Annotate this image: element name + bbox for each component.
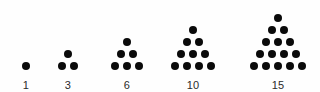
dot: [183, 38, 191, 46]
dot: [201, 50, 209, 58]
dot: [123, 62, 131, 70]
dot: [274, 38, 282, 46]
dot: [262, 62, 270, 70]
dot: [262, 38, 270, 46]
dot: [111, 62, 119, 70]
dot: [256, 50, 264, 58]
dot: [189, 26, 197, 34]
dot-row: [115, 48, 139, 60]
dot: [280, 50, 288, 58]
dot: [177, 50, 185, 58]
dot: [286, 38, 294, 46]
dot: [64, 50, 72, 58]
triangle-count-label: 1: [23, 78, 29, 92]
triangle-count-label: 15: [272, 78, 285, 92]
dot: [129, 50, 137, 58]
dot: [298, 62, 306, 70]
triangle-group-10: 10: [169, 24, 217, 92]
triangle-group-3: 3: [56, 48, 80, 92]
dot-row: [121, 36, 133, 48]
dot: [195, 62, 203, 70]
dot: [58, 62, 66, 70]
dot: [268, 26, 276, 34]
dot: [135, 62, 143, 70]
dot: [195, 38, 203, 46]
dot-row: [266, 24, 290, 36]
dot: [22, 62, 30, 70]
dot: [117, 50, 125, 58]
dot-row: [169, 60, 217, 72]
dot-rows: [56, 48, 80, 72]
dot-row: [254, 48, 302, 60]
dot: [123, 38, 131, 46]
dot-row: [109, 60, 145, 72]
dot-row: [248, 60, 308, 72]
dot: [280, 26, 288, 34]
dot-row: [56, 60, 80, 72]
dot-row: [272, 12, 284, 24]
triangle-count-label: 3: [65, 78, 71, 92]
dot: [207, 62, 215, 70]
dot: [274, 14, 282, 22]
dot: [183, 62, 191, 70]
dot: [70, 62, 78, 70]
dot-rows: [248, 12, 308, 72]
dot: [286, 62, 294, 70]
dot-row: [187, 24, 199, 36]
dot-rows: [169, 24, 217, 72]
dot-row: [20, 60, 32, 72]
dot: [189, 50, 197, 58]
triangle-count-label: 10: [187, 78, 200, 92]
dot: [292, 50, 300, 58]
dot: [250, 62, 258, 70]
dot-rows: [20, 60, 32, 72]
dot: [274, 62, 282, 70]
dot-row: [62, 48, 74, 60]
triangle-group-6: 6: [109, 36, 145, 92]
dot: [171, 62, 179, 70]
dot: [268, 50, 276, 58]
dot-row: [260, 36, 296, 48]
triangle-count-label: 6: [124, 78, 130, 92]
dot-row: [181, 36, 205, 48]
triangular-numbers-figure: 1361015: [0, 0, 320, 92]
dot-row: [175, 48, 211, 60]
triangle-group-15: 15: [248, 12, 308, 92]
triangle-group-1: 1: [20, 60, 32, 92]
dot-rows: [109, 36, 145, 72]
